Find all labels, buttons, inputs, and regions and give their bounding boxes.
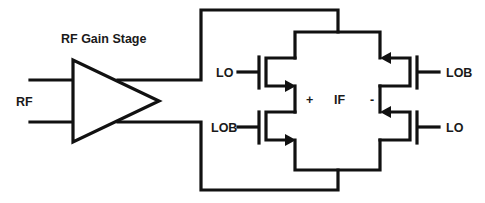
if-minus-label: - [370,93,374,107]
channel [266,112,295,140]
right-upper-gate-label: LOB [446,66,472,80]
channel [380,112,410,140]
rf-input-label: RF [16,95,33,109]
left-upper-gate-label: LO [216,66,234,80]
left-lower-transistor-icon [238,112,296,146]
left-upper-transistor-icon [238,57,296,112]
mixer-schematic: RF Gain Stage RF [0,0,485,203]
rf-input-wires [30,80,73,122]
amplifier-triangle-icon [73,60,159,142]
channel [380,58,410,86]
gain-stage-title: RF Gain Stage [61,32,146,46]
left-lower-gate-label: LOB [211,121,237,135]
right-upper-transistor-icon [380,52,439,112]
source-arrow-icon [380,106,391,118]
top-rail [295,32,380,58]
if-output-label: IF [334,93,345,107]
source-arrow-icon [380,52,391,64]
right-lower-gate-label: LO [446,121,464,135]
channel [266,58,295,86]
right-lower-transistor-icon [380,106,439,143]
bottom-rail [295,140,380,170]
if-plus-label: + [306,93,313,107]
